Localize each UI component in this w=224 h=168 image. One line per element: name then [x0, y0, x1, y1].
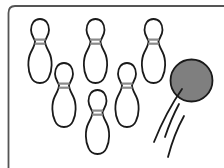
- bowling-illustration: [0, 0, 224, 168]
- bowling-pin-icon: [28, 19, 51, 83]
- motion-lines-icon: [154, 89, 184, 157]
- bowling-pin-icon: [52, 63, 75, 127]
- bowling-pin-icon: [84, 19, 107, 83]
- bowling-pin-icon: [86, 90, 109, 154]
- bowling-pin-icon: [115, 63, 138, 127]
- bowling-pin-icon: [142, 19, 165, 83]
